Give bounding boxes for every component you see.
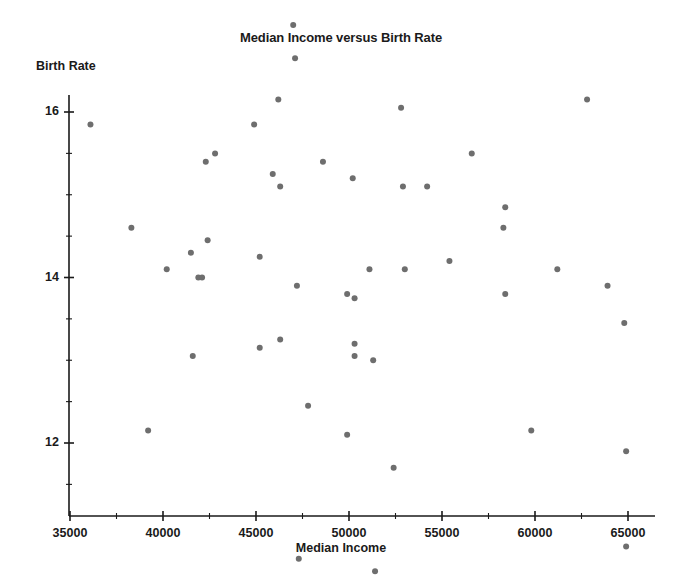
axis-ticks <box>64 0 628 521</box>
data-point <box>400 183 406 189</box>
data-point <box>275 97 281 103</box>
data-point <box>500 225 506 231</box>
data-point <box>554 266 560 272</box>
data-point <box>605 283 611 289</box>
y-tick-label: 14 <box>7 270 59 284</box>
y-tick-label: 12 <box>7 435 59 449</box>
data-point <box>87 121 93 127</box>
data-point <box>402 266 408 272</box>
data-point <box>621 320 627 326</box>
data-point <box>128 225 134 231</box>
data-point <box>398 105 404 111</box>
x-tick-label: 65000 <box>583 526 673 540</box>
data-point <box>366 266 372 272</box>
data-point <box>305 403 311 409</box>
scatter-plot-canvas <box>0 0 682 576</box>
data-point <box>344 291 350 297</box>
data-point <box>277 337 283 343</box>
data-point <box>446 258 452 264</box>
data-point <box>344 432 350 438</box>
data-point <box>290 22 296 28</box>
x-tick-label: 50000 <box>304 526 394 540</box>
data-point <box>502 291 508 297</box>
x-tick-label: 35000 <box>25 526 115 540</box>
y-tick-label: 16 <box>7 104 59 118</box>
data-point <box>623 448 629 454</box>
data-point <box>292 55 298 61</box>
chart-figure: Median Income versus Birth Rate Birth Ra… <box>0 0 682 576</box>
data-point <box>350 175 356 181</box>
data-point <box>372 568 378 574</box>
x-tick-label: 40000 <box>118 526 208 540</box>
data-point <box>294 283 300 289</box>
data-point <box>190 353 196 359</box>
data-point <box>270 171 276 177</box>
x-tick-label: 55000 <box>397 526 487 540</box>
data-point <box>370 357 376 363</box>
data-point <box>277 183 283 189</box>
data-points-group <box>87 0 629 574</box>
data-point <box>424 183 430 189</box>
data-point <box>352 353 358 359</box>
data-point <box>502 204 508 210</box>
data-point <box>203 159 209 165</box>
data-point <box>145 428 151 434</box>
data-point <box>257 345 263 351</box>
data-point <box>257 254 263 260</box>
data-point <box>199 275 205 281</box>
data-point <box>352 341 358 347</box>
data-point <box>188 250 194 256</box>
data-point <box>528 428 534 434</box>
x-tick-label: 60000 <box>490 526 580 540</box>
data-point <box>352 295 358 301</box>
data-point <box>320 159 326 165</box>
data-point <box>205 237 211 243</box>
data-point <box>391 465 397 471</box>
data-point <box>212 150 218 156</box>
data-point <box>251 121 257 127</box>
data-point <box>164 266 170 272</box>
data-point <box>296 556 302 562</box>
axis-lines <box>69 95 655 516</box>
data-point <box>469 150 475 156</box>
data-point <box>584 97 590 103</box>
x-tick-label: 45000 <box>211 526 301 540</box>
data-point <box>623 543 629 549</box>
